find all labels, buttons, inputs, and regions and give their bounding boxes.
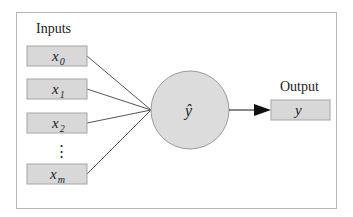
- inputs-label: Inputs: [36, 21, 71, 36]
- input-subscript: 1: [60, 89, 65, 100]
- input-symbol: x: [51, 115, 59, 131]
- input-box-1: x1: [27, 79, 87, 100]
- perceptron-diagram: Inputs x0 x1 x2 ⋮ xm ŷ Output y: [0, 0, 353, 217]
- input-symbol: x: [51, 48, 59, 64]
- output-label: Output: [280, 79, 319, 94]
- input-box-0: x0: [27, 46, 87, 67]
- input-subscript: 2: [60, 123, 65, 134]
- input-box-2: x2: [27, 113, 87, 134]
- input-subscript: 0: [60, 56, 65, 67]
- input-box-m: xm: [27, 164, 87, 185]
- output-symbol: y: [293, 102, 302, 118]
- input-symbol: x: [51, 81, 59, 97]
- input-subscript: m: [58, 174, 65, 185]
- input-symbol: x: [49, 166, 57, 182]
- output-box: y: [271, 100, 330, 120]
- ellipsis: ⋮: [54, 143, 69, 159]
- node-symbol: ŷ: [183, 102, 193, 120]
